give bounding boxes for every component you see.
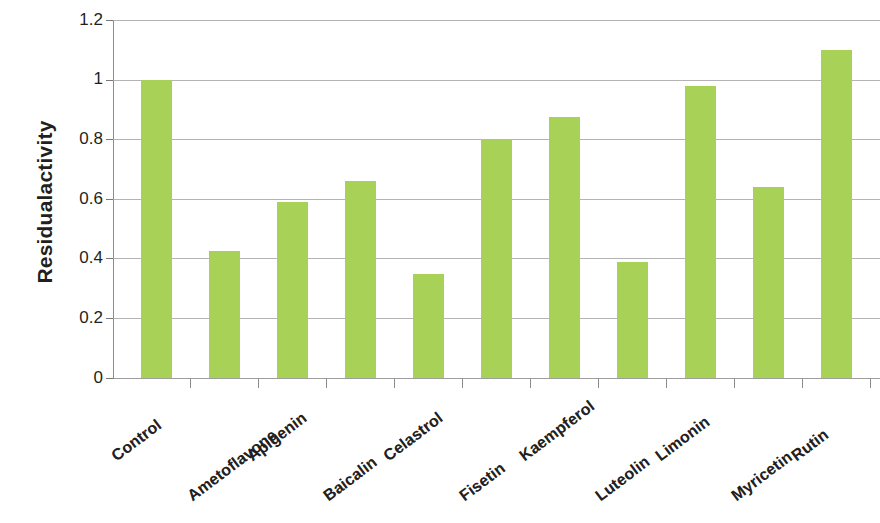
bar-baicalin [345, 181, 376, 378]
plot-area [113, 20, 880, 378]
bar-limonin [685, 86, 716, 378]
x-tick-mark [258, 379, 259, 388]
x-axis-label-apigenin: Apigenin [244, 409, 310, 465]
x-axis-label-ametoflavone: Ametoflavone [184, 426, 280, 505]
x-tick-mark [666, 379, 667, 388]
x-tick-mark [394, 379, 395, 388]
bar-apigenin [277, 202, 308, 378]
y-tick-label: 0.2 [0, 309, 103, 326]
bar-celastrol [413, 274, 444, 378]
x-tick-mark [190, 379, 191, 388]
bar-rutin [821, 50, 852, 378]
x-tick-mark [598, 379, 599, 388]
x-tick-mark [462, 379, 463, 388]
bar-kaempferol [549, 117, 580, 378]
y-tick-label: 1 [0, 70, 103, 87]
bar-luteolin [617, 262, 648, 378]
y-axis-tick-labels: 1.2 1 0.8 0.6 0.4 0.2 0 [0, 0, 103, 523]
y-tick-label: 1.2 [0, 11, 103, 28]
y-tick-label: 0.4 [0, 249, 103, 266]
bar-fisetin [481, 139, 512, 378]
x-axis-label-kaempferol: Kaempferol [516, 397, 598, 465]
x-axis-label-baicalin: Baicalin [320, 453, 380, 505]
x-axis-label-myricetin: Myricetin [728, 448, 796, 505]
x-axis-label-celastrol: Celastrol [380, 409, 446, 465]
x-axis-label-fisetin: Fisetin [456, 459, 509, 505]
y-tick-label: 0.6 [0, 190, 103, 207]
x-axis-baseline [113, 378, 880, 379]
y-tick-label: 0.8 [0, 130, 103, 147]
x-axis-label-control: Control [108, 416, 165, 465]
x-axis-label-luteolin: Luteolin [592, 453, 653, 505]
gridline [113, 80, 880, 81]
x-tick-mark [326, 379, 327, 388]
x-tick-mark [870, 379, 871, 388]
gridline [113, 20, 880, 21]
bar-myricetin [753, 187, 784, 378]
x-tick-mark [734, 379, 735, 388]
bar-control [141, 80, 172, 378]
y-tick-label: 0 [0, 369, 103, 386]
bar-chart: Residualactivity 1.2 1 0.8 0.6 0.4 0.2 0… [0, 0, 880, 523]
bar-ametoflavone [209, 251, 240, 378]
x-axis-label-rutin: Rutin [788, 426, 832, 465]
x-tick-mark [530, 379, 531, 388]
x-tick-mark [802, 379, 803, 388]
x-axis-label-limonin: Limonin [652, 413, 713, 465]
